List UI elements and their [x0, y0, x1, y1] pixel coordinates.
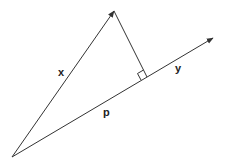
vector-projection-diagram: x y p: [0, 0, 225, 168]
label-y: y: [175, 62, 182, 74]
label-x: x: [58, 66, 65, 78]
right-angle-marker: [138, 70, 144, 80]
vector-y-line: [12, 38, 213, 157]
label-p: p: [103, 106, 110, 118]
perpendicular-line: [114, 11, 147, 77]
vector-x-line: [12, 11, 114, 157]
